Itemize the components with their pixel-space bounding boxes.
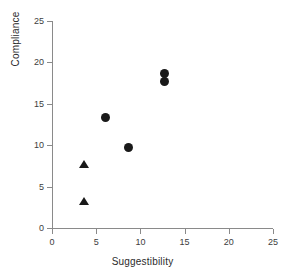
y-tick-label-25: 25 [24,17,44,26]
x-tick-label-5: 5 [86,238,106,247]
x-tick-15 [185,229,186,234]
y-tick-label-15: 15 [24,100,44,109]
x-tick-label-20: 20 [219,238,239,247]
data-point-circle-0 [101,113,110,122]
x-tick-0 [52,229,53,234]
y-tick-25 [47,21,52,22]
y-axis-title: Compliance [10,0,21,84]
x-tick-label-25: 25 [263,238,283,247]
x-axis-line [52,228,273,229]
y-tick-label-0: 0 [24,224,44,233]
data-point-circle-3 [160,77,169,86]
y-axis-line [52,21,53,229]
x-axis-title: Suggestibility [0,256,285,267]
x-tick-25 [273,229,274,234]
y-tick-label-20: 20 [24,58,44,67]
x-tick-10 [140,229,141,234]
y-tick-20 [47,62,52,63]
x-tick-label-10: 10 [130,238,150,247]
x-tick-label-15: 15 [175,238,195,247]
scatter-plot: 05101520250510152025 Suggestibility Comp… [0,0,285,279]
x-tick-20 [229,229,230,234]
data-point-triangle-1 [79,197,89,205]
x-tick-label-0: 0 [42,238,62,247]
y-tick-10 [47,145,52,146]
y-tick-5 [47,187,52,188]
data-point-triangle-0 [79,160,89,168]
y-tick-label-5: 5 [24,183,44,192]
data-point-circle-1 [124,143,133,152]
y-tick-15 [47,104,52,105]
y-tick-label-10: 10 [24,141,44,150]
y-axis-title-label: Compliance [10,0,21,84]
x-tick-5 [96,229,97,234]
